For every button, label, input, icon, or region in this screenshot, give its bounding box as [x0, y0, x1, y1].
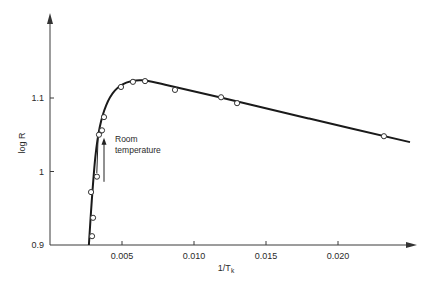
data-point: [381, 134, 386, 139]
x-tick-label: 0.010: [183, 251, 206, 261]
chart: 0.0050.0100.0150.020 0.911.1 1/Tk log R …: [0, 0, 433, 287]
x-ticks: 0.0050.0100.0150.020: [111, 241, 350, 261]
x-axis-arrow-icon: [406, 242, 417, 248]
fitted-curve-line: [89, 80, 410, 245]
data-point: [130, 79, 135, 84]
series-lines: [89, 80, 410, 245]
data-point: [101, 115, 106, 120]
data-point: [88, 189, 93, 194]
data-point: [142, 78, 147, 83]
y-axis-label: log R: [17, 132, 27, 154]
data-point: [172, 87, 177, 92]
y-tick-label: 1: [39, 167, 44, 177]
data-point: [99, 128, 104, 133]
annotation-arrow-head-icon: [102, 138, 107, 145]
x-axis-label: 1/Tk: [218, 263, 235, 274]
data-point: [90, 215, 95, 220]
data-point: [234, 101, 239, 106]
y-axis-arrow-icon: [47, 13, 53, 24]
room-temperature-annotation: Room temperature: [102, 134, 162, 182]
x-tick-label: 0.020: [327, 251, 350, 261]
annotation-line-2: temperature: [115, 145, 161, 155]
data-points: [88, 78, 386, 238]
x-tick-label: 0.005: [111, 251, 134, 261]
x-axis-label-subscript: k: [231, 267, 235, 274]
data-point: [89, 234, 94, 239]
x-tick-label: 0.015: [255, 251, 278, 261]
data-point: [118, 84, 123, 89]
y-ticks: 0.911.1: [31, 93, 54, 250]
y-tick-label: 1.1: [31, 93, 44, 103]
y-tick-label: 0.9: [31, 240, 44, 250]
annotation-line-1: Room: [115, 134, 138, 144]
data-point: [94, 174, 99, 179]
data-point: [218, 95, 223, 100]
